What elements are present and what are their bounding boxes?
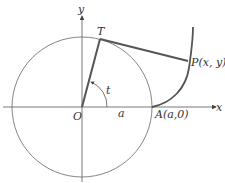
point-a-coords: (a,0) <box>163 108 189 121</box>
involute-diagram: y x T O a t P(x, y) A(a,0) <box>0 0 225 183</box>
tangent-tp <box>100 39 188 61</box>
point-a-label: A(a,0) <box>154 108 189 121</box>
angle-label: t <box>106 84 111 97</box>
point-p-coords: (x, y) <box>198 56 225 69</box>
radius-ot <box>82 39 100 107</box>
involute-curve <box>152 27 193 107</box>
y-axis-label: y <box>77 3 85 16</box>
point-a-letter: A <box>154 108 163 121</box>
origin-label: O <box>73 110 82 123</box>
radius-label: a <box>118 107 125 120</box>
tangent-point-label: T <box>97 25 106 38</box>
diagram-canvas: y x T O a t P(x, y) A(a,0) <box>0 0 225 183</box>
x-axis-label: x <box>216 101 223 114</box>
angle-arc <box>91 82 107 107</box>
point-p-label: P(x, y) <box>190 56 225 69</box>
